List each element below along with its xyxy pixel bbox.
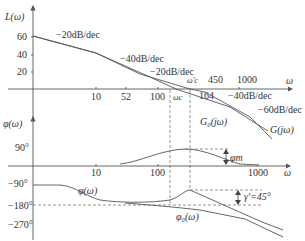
bode-diagram: L(ω) ω 60 40 20 10 52 100 164 450 1000 ω…	[0, 0, 305, 241]
phase-x-label: ω	[284, 167, 291, 178]
g-curve-label: G(jω)	[270, 124, 294, 136]
phi0-curve-label: φ₀(ω)	[176, 211, 199, 223]
phase-x-tick-10: 10	[91, 167, 101, 178]
omega-c-label: ωc	[173, 93, 183, 102]
phi0-curve	[125, 203, 283, 237]
y-tick-60: 60	[17, 31, 27, 42]
phase-tick-neg270: −270°	[8, 219, 33, 230]
slope-label-3: −20dB/dec	[150, 66, 195, 77]
slope-label-4: −40dB/dec	[228, 90, 273, 101]
magnitude-y-label: L(ω)	[4, 11, 25, 23]
slope-label-2: −40dB/dec	[120, 53, 165, 64]
g-magnitude-curve	[33, 36, 272, 139]
phase-plot: φ(ω) ω 90° −90° −180° −270° 10 100 1000 …	[3, 117, 291, 240]
x-tick-1000: 1000	[237, 74, 257, 85]
magnitude-plot: L(ω) ω 60 40 20 10 52 100 164 450 1000 ω…	[4, 6, 303, 139]
slope-label-5: −60dB/dec	[258, 104, 303, 115]
gamma-label: γ'=45°	[244, 191, 271, 202]
g0-magnitude-curve	[33, 36, 268, 131]
x-tick-100: 100	[150, 91, 165, 102]
g0-curve-label: G₀(jω)	[200, 116, 228, 128]
omega-c-prime-label: ω'c	[187, 76, 198, 85]
magnitude-x-label: ω	[286, 75, 293, 86]
x-tick-52: 52	[121, 91, 131, 102]
phase-y-label: φ(ω)	[3, 118, 23, 130]
phase-tick-90: 90°	[15, 142, 29, 153]
phi-m-label: φm	[230, 152, 243, 163]
y-tick-20: 20	[17, 66, 27, 77]
x-tick-10: 10	[91, 91, 101, 102]
x-tick-450: 450	[208, 74, 223, 85]
y-tick-40: 40	[17, 49, 27, 60]
phase-tick-neg180: −180°	[8, 200, 33, 211]
phase-x-tick-1000: 1000	[248, 167, 268, 178]
slope-label-1: −20dB/dec	[56, 29, 101, 40]
phi-curve-label: φ(ω)	[78, 185, 98, 197]
phase-x-tick-100: 100	[150, 167, 165, 178]
phase-tick-neg90: −90°	[8, 178, 28, 189]
